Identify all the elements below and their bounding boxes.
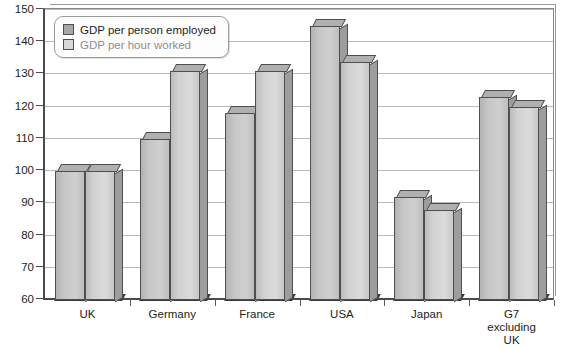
bar-side-face: [370, 59, 378, 302]
bar-person-employed[interactable]: [394, 197, 424, 300]
x-axis-tick: [469, 300, 470, 306]
bar-front-face: [509, 107, 539, 300]
y-axis-tick-label: 150: [0, 2, 43, 16]
bar-front-face: [394, 197, 424, 300]
bar-top-face: [426, 203, 460, 211]
bar-front-face: [85, 171, 115, 300]
bar-front-face: [479, 97, 509, 300]
bar-hour-worked[interactable]: [85, 171, 115, 300]
legend-label: GDP per person employed: [80, 24, 216, 36]
bar-top-face: [311, 19, 345, 27]
dark-swatch-icon: [63, 24, 74, 35]
bar-front-face: [424, 210, 454, 300]
x-axis: UKGermanyFranceUSAJapanG7excludingUK: [45, 300, 554, 349]
bar-top-face: [257, 64, 291, 72]
bar-front-face: [255, 71, 285, 300]
bar-top-face: [511, 100, 545, 108]
bar-side-face: [115, 169, 123, 302]
bar-front-face: [140, 139, 170, 300]
bar-hour-worked[interactable]: [170, 71, 200, 300]
x-axis-label: G7excludingUK: [469, 308, 554, 347]
bar-front-face: [225, 113, 255, 300]
bar-person-employed[interactable]: [55, 171, 85, 300]
bar-top-face: [396, 190, 430, 198]
bar-group: [384, 9, 469, 300]
bar-front-face: [55, 171, 85, 300]
y-axis-tick-label: 120: [0, 99, 43, 113]
y-axis-tick-label: 60: [0, 292, 43, 306]
y-axis-tick-label: 90: [0, 195, 43, 209]
bar-side-face: [454, 208, 462, 302]
bar-side-face: [200, 69, 208, 302]
bar-front-face: [340, 62, 370, 300]
legend-item-gdp-per-hour-worked[interactable]: GDP per hour worked: [63, 37, 216, 52]
bar-top-face: [87, 164, 121, 172]
bar-top-face: [172, 64, 206, 72]
bar-person-employed[interactable]: [310, 26, 340, 300]
bar-group: [300, 9, 385, 300]
bar-side-face: [539, 105, 547, 303]
light-swatch-icon: [63, 39, 74, 50]
x-axis-tick: [384, 300, 385, 306]
x-axis-label: USA: [300, 308, 385, 321]
bar-hour-worked[interactable]: [509, 107, 539, 300]
x-axis-tick: [300, 300, 301, 306]
bar-front-face: [170, 71, 200, 300]
bar-person-employed[interactable]: [479, 97, 509, 300]
y-axis: 15014013012011010090807060: [0, 0, 43, 310]
bar-hour-worked[interactable]: [255, 71, 285, 300]
y-axis-tick-label: 70: [0, 260, 43, 274]
bar-chart: 15014013012011010090807060 UKGermanyFran…: [0, 0, 562, 349]
x-axis-label: France: [215, 308, 300, 321]
bar-person-employed[interactable]: [225, 113, 255, 300]
x-axis-tick: [215, 300, 216, 306]
legend-item-gdp-per-person-employed[interactable]: GDP per person employed: [63, 22, 216, 37]
y-axis-tick-label: 100: [0, 163, 43, 177]
bar-top-face: [481, 90, 515, 98]
bar-hour-worked[interactable]: [340, 62, 370, 300]
x-axis-label: Germany: [130, 308, 215, 321]
y-axis-tick-label: 130: [0, 66, 43, 80]
x-axis-tick: [554, 300, 555, 306]
chart-legend: GDP per person employed GDP per hour wor…: [54, 16, 229, 58]
y-axis-tick-label: 110: [0, 131, 43, 145]
bar-side-face: [285, 69, 293, 302]
bar-hour-worked[interactable]: [424, 210, 454, 300]
bar-front-face: [310, 26, 340, 300]
bar-group: [469, 9, 554, 300]
bar-person-employed[interactable]: [140, 139, 170, 300]
x-axis-tick: [130, 300, 131, 306]
y-axis-tick-label: 80: [0, 228, 43, 242]
bar-top-face: [341, 55, 375, 63]
x-axis-label: UK: [45, 308, 130, 321]
x-axis-label: Japan: [384, 308, 469, 321]
y-axis-tick-label: 140: [0, 34, 43, 48]
legend-label: GDP per hour worked: [80, 39, 191, 51]
